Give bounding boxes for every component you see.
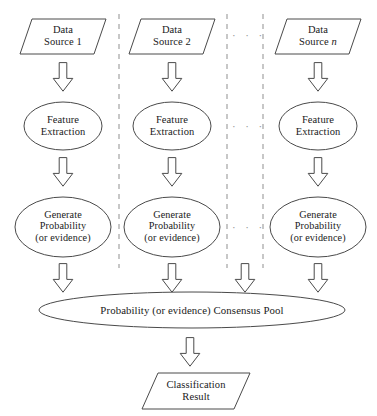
arrow-generate-to-pool-3 [235,264,255,293]
shape-data-source-n [275,19,361,54]
shape-generate-probability-n [270,197,366,257]
shape-data-source-1 [20,19,106,54]
arrow-pool-to-result [180,338,200,367]
arrow-generate-to-pool-2 [162,264,182,293]
flowchart-graphics [0,0,377,416]
arrow-generate-to-pool-n [308,264,328,293]
arrow-feature-to-generate-n [308,158,328,187]
arrow-source-to-feature-1 [53,63,73,92]
shape-generate-probability-2 [124,197,220,257]
shape-feature-extraction-n [279,102,357,150]
shape-feature-extraction-2 [133,102,211,150]
arrow-generate-to-pool-1 [53,264,73,293]
ellipsis-feature-extraction: · · · [232,121,266,132]
ellipsis-sources: · · · [232,30,266,41]
shape-generate-probability-1 [15,197,111,257]
shape-consensus-pool [39,292,345,328]
arrow-source-to-feature-2 [162,63,182,92]
shape-classification-result [142,373,250,409]
arrow-feature-to-generate-2 [162,158,182,187]
flowchart-canvas: Data Source 1 Data Source 2 Data Source … [0,0,377,416]
arrow-feature-to-generate-1 [53,158,73,187]
ellipsis-generate-probability: · · · [232,222,266,233]
shape-data-source-2 [129,19,215,54]
shape-feature-extraction-1 [24,102,102,150]
arrow-source-to-feature-n [308,63,328,92]
